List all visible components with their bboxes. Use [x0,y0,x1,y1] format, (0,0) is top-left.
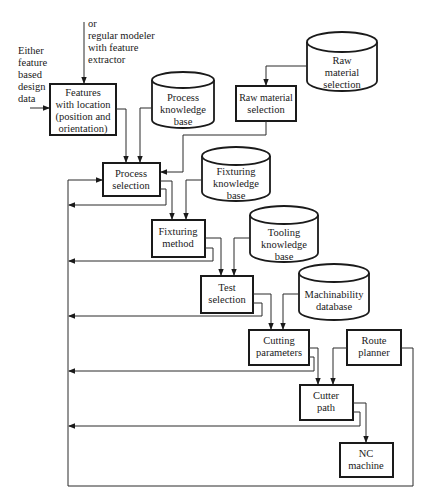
tooling-kb-label-2: knowledge [261,239,307,250]
features-box: Features with location (position and ori… [50,84,116,135]
machinability-label-2: database [316,301,352,312]
top-input-line-2: regular modeler [88,30,155,41]
process-planning-flow-diagram: or regular modeler with feature extracto… [0,0,428,499]
edge-toolingkb-to-test [234,238,250,275]
process-selection-box: Process selection [103,163,160,196]
cutting-label-1: Cutting [263,335,295,346]
cutter-label-2: path [317,402,336,413]
process-sel-label-2: selection [112,180,150,191]
left-input-line-1: Either [18,45,44,56]
process-kb-label-1: Process [167,92,199,103]
top-input-line-4: extractor [88,54,126,65]
left-input-line-5: data [18,93,36,104]
test-sel-label-1: Test [218,282,235,293]
process-kb-label-3: base [174,116,193,127]
fixturing-knowledge-base-cylinder: Fixturing knowledge base [202,147,270,201]
fixturing-kb-label-2: knowledge [213,178,259,189]
raw-sel-label-1: Raw material [239,92,293,103]
test-sel-label-2: selection [208,294,246,305]
route-planner-box: Route planner [347,330,401,365]
raw-sel-label-2: selection [247,104,285,115]
edge-fixturingkb-to-fixturing [186,180,202,219]
cutter-label-1: Cutter [313,390,340,401]
cutting-parameters-box: Cutting parameters [249,330,309,365]
process-kb-label-2: knowledge [160,104,206,115]
test-selection-box: Test selection [201,276,253,313]
tooling-kb-label-3: base [275,251,294,262]
fixturing-method-label-2: method [162,238,194,249]
cutter-path-box: Cutter path [300,385,353,420]
raw-db-label-1: Raw [332,55,352,66]
left-input-label: Either feature based design data [18,45,47,104]
feedback-bus-to-process [68,180,102,486]
process-knowledge-base-cylinder: Process knowledge base [152,72,214,128]
features-label-4: orientation) [59,123,108,135]
nc-machine-box: NC machine [340,443,393,477]
raw-material-database-cylinder: Raw material selection [307,32,377,91]
nc-label-1: NC [359,448,374,459]
edge-rawdb-to-rawsel [266,66,307,85]
features-label-3: (position and [55,111,111,123]
edge-machinability-to-cutting [283,294,299,329]
raw-db-label-2: material [325,67,359,78]
top-input-line-1: or [88,18,97,29]
top-input-line-3: with feature [88,42,139,53]
left-input-line-3: based [18,69,43,80]
process-sel-label-1: Process [115,168,147,179]
features-label-1: Features [65,87,101,98]
edge-route-to-cutterpath [333,348,347,384]
raw-material-selection-box: Raw material selection [236,86,296,121]
left-input-line-2: feature [18,57,47,68]
raw-db-label-3: selection [323,79,361,90]
fixturing-method-box: Fixturing method [152,220,205,257]
edge-features-to-process [116,109,126,162]
features-label-2: with location [55,99,111,110]
nc-label-2: machine [348,460,384,471]
tooling-kb-label-1: Tooling [268,227,301,238]
tooling-knowledge-base-cylinder: Tooling knowledge base [250,206,318,262]
left-input-line-4: design [18,81,46,92]
route-label-1: Route [361,335,386,346]
fixturing-kb-label-3: base [227,190,246,201]
fixturing-kb-label-1: Fixturing [216,166,256,177]
fixturing-method-label-1: Fixturing [158,226,198,237]
route-label-2: planner [358,347,390,358]
edge-processkb-to-process [140,108,152,162]
top-input-label: or regular modeler with feature extracto… [88,18,155,65]
machinability-database-cylinder: Machinability database [299,264,369,320]
machinability-label-1: Machinability [305,289,365,300]
cutting-label-2: parameters [256,347,302,358]
